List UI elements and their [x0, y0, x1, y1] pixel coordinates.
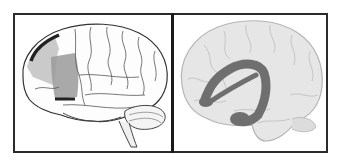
left-brain-panel — [15, 15, 171, 151]
brain-highlighted-pathway-icon — [174, 15, 327, 151]
right-brain-panel — [174, 15, 327, 151]
brain-lateral-sketch-icon — [15, 15, 171, 151]
